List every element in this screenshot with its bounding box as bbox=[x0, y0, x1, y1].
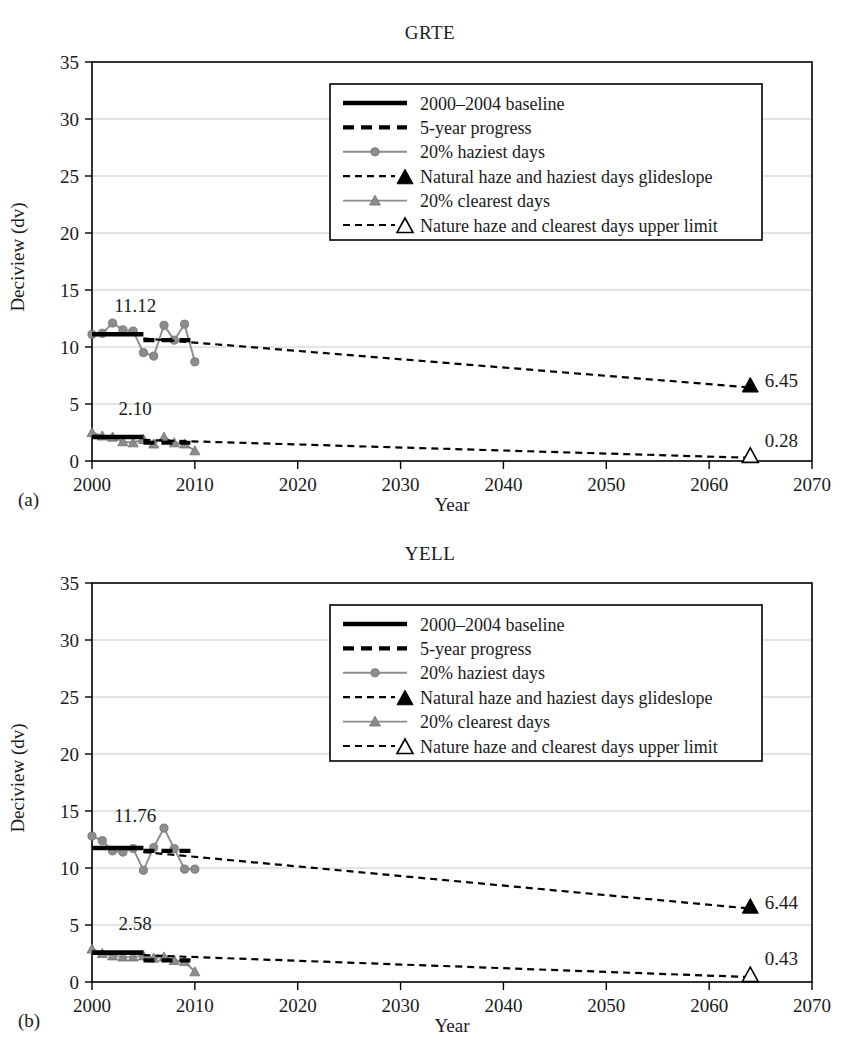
legend-label: 20% haziest days bbox=[420, 663, 545, 683]
x-tick-label: 2050 bbox=[587, 995, 625, 1016]
endpoint-group bbox=[742, 377, 758, 462]
x-tick-label: 2010 bbox=[176, 995, 214, 1016]
x-tick-label: 2060 bbox=[690, 995, 728, 1016]
data-point-circle bbox=[98, 837, 106, 845]
data-point-circle bbox=[160, 321, 168, 329]
legend-label: 20% clearest days bbox=[420, 712, 550, 732]
series-group bbox=[87, 824, 750, 977]
endpoint-open-triangle bbox=[742, 448, 758, 463]
data-point-circle bbox=[88, 832, 96, 840]
series-glide bbox=[143, 440, 750, 458]
chart-panel-b: YELLDeciview (dv)Year(b)0510152025303520… bbox=[0, 521, 860, 1042]
x-tick-label: 2070 bbox=[793, 995, 831, 1016]
data-annotation: 11.12 bbox=[114, 295, 156, 316]
legend: 2000–2004 baseline5-year progress20% haz… bbox=[330, 84, 762, 240]
x-tick-label: 2000 bbox=[73, 474, 111, 495]
data-point-circle bbox=[139, 866, 147, 874]
data-annotation: 6.44 bbox=[765, 892, 799, 913]
series-group bbox=[87, 319, 750, 458]
data-annotation: 6.45 bbox=[765, 370, 798, 391]
y-tick-label: 10 bbox=[60, 337, 79, 358]
y-tick-label: 15 bbox=[60, 280, 79, 301]
series-glide bbox=[143, 852, 750, 909]
y-tick-label: 35 bbox=[60, 573, 79, 594]
x-tick-label: 2050 bbox=[587, 474, 625, 495]
data-annotation: 0.28 bbox=[765, 430, 798, 451]
x-tick-label: 2000 bbox=[73, 995, 111, 1016]
y-tick-label: 35 bbox=[60, 52, 79, 73]
y-tick-label: 20 bbox=[60, 223, 79, 244]
y-tick-label: 30 bbox=[60, 630, 79, 651]
legend-label: Nature haze and clearest days upper limi… bbox=[420, 216, 718, 236]
data-point-circle bbox=[191, 358, 199, 366]
x-tick-label: 2020 bbox=[279, 474, 317, 495]
x-tick-label: 2010 bbox=[176, 474, 214, 495]
series-glide bbox=[143, 955, 750, 977]
data-point-circle bbox=[371, 148, 379, 156]
legend-label: Nature haze and clearest days upper limi… bbox=[420, 737, 718, 757]
endpoint-open-triangle bbox=[742, 967, 758, 982]
y-tick-label: 0 bbox=[70, 451, 80, 472]
data-point-circle bbox=[191, 865, 199, 873]
data-point-circle bbox=[180, 320, 188, 328]
y-tick-label: 5 bbox=[70, 915, 80, 936]
data-point-circle bbox=[150, 352, 158, 360]
x-tick-label: 2040 bbox=[484, 995, 522, 1016]
legend-label: 20% clearest days bbox=[420, 191, 550, 211]
data-point-circle bbox=[160, 824, 168, 832]
data-point-triangle bbox=[190, 446, 200, 455]
legend-label: Natural haze and haziest days glideslope bbox=[420, 688, 712, 708]
data-annotation: 2.10 bbox=[119, 398, 152, 419]
annotations: 11.762.586.440.43 bbox=[114, 805, 798, 969]
x-tick-label: 2060 bbox=[690, 474, 728, 495]
x-tick-label: 2070 bbox=[793, 474, 831, 495]
y-tick-label: 5 bbox=[70, 394, 80, 415]
data-annotation: 2.58 bbox=[119, 913, 152, 934]
y-tick-label: 30 bbox=[60, 109, 79, 130]
data-annotation: 11.76 bbox=[114, 805, 156, 826]
y-tick-label: 20 bbox=[60, 744, 79, 765]
x-tick-label: 2030 bbox=[382, 995, 420, 1016]
legend-label: 2000–2004 baseline bbox=[420, 615, 564, 635]
annotations: 11.122.106.450.28 bbox=[114, 295, 798, 451]
x-tick-label: 2040 bbox=[484, 474, 522, 495]
y-tick-label: 0 bbox=[70, 972, 80, 993]
y-tick-label: 25 bbox=[60, 687, 79, 708]
y-tick-label: 15 bbox=[60, 801, 79, 822]
legend: 2000–2004 baseline5-year progress20% haz… bbox=[330, 605, 762, 761]
legend-label: 2000–2004 baseline bbox=[420, 94, 564, 114]
plot-area: 0510152025303520002010202020302040205020… bbox=[0, 521, 860, 1042]
legend-label: 5-year progress bbox=[420, 639, 531, 659]
chart-panel-a: GRTEDeciview (dv)Year(a)0510152025303520… bbox=[0, 0, 860, 521]
data-point-circle bbox=[108, 319, 116, 327]
endpoint-filled-triangle bbox=[742, 899, 758, 914]
data-point-circle bbox=[180, 865, 188, 873]
legend-label: 20% haziest days bbox=[420, 142, 545, 162]
endpoint-filled-triangle bbox=[742, 377, 758, 392]
data-point-circle bbox=[139, 349, 147, 357]
x-tick-label: 2020 bbox=[279, 995, 317, 1016]
data-point-circle bbox=[371, 669, 379, 677]
x-tick-label: 2030 bbox=[382, 474, 420, 495]
plot-area: 0510152025303520002010202020302040205020… bbox=[0, 0, 860, 521]
series-glide bbox=[143, 338, 750, 387]
y-tick-label: 25 bbox=[60, 166, 79, 187]
data-annotation: 0.43 bbox=[765, 948, 798, 969]
y-tick-label: 10 bbox=[60, 858, 79, 879]
legend-label: 5-year progress bbox=[420, 118, 531, 138]
figure-root: GRTEDeciview (dv)Year(a)0510152025303520… bbox=[0, 0, 860, 1042]
legend-label: Natural haze and haziest days glideslope bbox=[420, 167, 712, 187]
endpoint-group bbox=[742, 899, 758, 982]
